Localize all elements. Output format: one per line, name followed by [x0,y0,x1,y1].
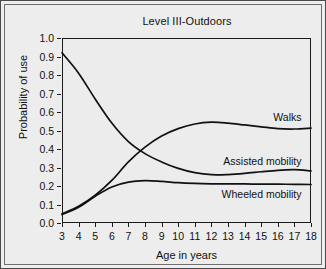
x-tick-mark [162,223,163,227]
y-tick-label: 0.5 [28,126,54,136]
y-tick-mark [57,131,61,132]
x-tick-mark [294,223,295,227]
y-tick-label: 0.0 [28,218,54,228]
x-axis-title: Age in years [62,249,311,261]
x-tick-mark [79,223,80,227]
x-tick-mark [261,223,262,227]
y-tick-mark [57,38,61,39]
y-tick-mark [57,223,61,224]
x-tick-mark [211,223,212,227]
y-tick-label: 0.4 [28,144,54,154]
y-tick-label: 0.3 [28,163,54,173]
x-tick-label: 18 [301,231,321,241]
chart-title: Level III-Outdoors [62,15,312,27]
x-tick-mark [245,223,246,227]
x-tick-mark [112,223,113,227]
y-tick-label: 0.2 [28,181,54,191]
series-label: Wheeled mobility [222,188,302,200]
x-tick-mark [228,223,229,227]
y-tick-label: 0.8 [28,70,54,80]
x-tick-mark [62,223,63,227]
y-tick-mark [57,168,61,169]
y-tick-label: 0.7 [28,89,54,99]
y-tick-label: 0.1 [28,200,54,210]
x-tick-mark [95,223,96,227]
y-tick-mark [57,75,61,76]
x-tick-mark [311,223,312,227]
chart-figure: Level III-Outdoors Probability of use Ag… [0,0,326,269]
figure-inner-border: Level III-Outdoors Probability of use Ag… [4,4,322,265]
series-line [62,122,311,214]
y-tick-label: 1.0 [28,33,54,43]
y-tick-mark [57,186,61,187]
x-tick-mark [128,223,129,227]
y-tick-mark [57,94,61,95]
series-label: Assisted mobility [223,155,301,167]
y-tick-label: 0.9 [28,52,54,62]
y-tick-mark [57,149,61,150]
series-label: Walks [273,111,301,123]
x-tick-mark [145,223,146,227]
x-tick-mark [278,223,279,227]
x-tick-mark [178,223,179,227]
x-tick-mark [195,223,196,227]
y-tick-label: 0.6 [28,107,54,117]
y-tick-mark [57,112,61,113]
y-tick-mark [57,205,61,206]
y-tick-mark [57,57,61,58]
